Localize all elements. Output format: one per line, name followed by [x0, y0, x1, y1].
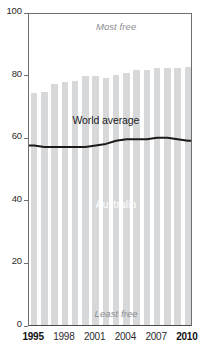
annotation-most-free: Most free	[96, 22, 137, 32]
series-label-world-average: World average	[72, 115, 139, 126]
x-axis: 199519982001200420072010	[0, 326, 203, 351]
y-tick-label: 80	[12, 69, 22, 79]
chart-container: 020406080100 199519982001200420072010 Mo…	[0, 0, 203, 351]
x-tick-label: 2001	[84, 332, 105, 342]
x-tick-label: 1998	[53, 332, 74, 342]
x-tick-label: 2004	[115, 332, 136, 342]
x-tick-label: 2007	[145, 332, 166, 342]
annotation-least-free: Least free	[95, 309, 138, 319]
clipped-title	[0, 0, 203, 1]
y-tick-label: 20	[12, 256, 22, 266]
x-tick-label: 1995	[22, 332, 43, 342]
plot-area: Most free Least free World average Austr…	[28, 13, 192, 326]
y-tick-label: 40	[12, 194, 22, 204]
y-axis: 020406080100	[0, 0, 28, 351]
x-tick-label: 2010	[176, 332, 197, 342]
world-average-line	[29, 14, 192, 326]
y-tick-label: 60	[12, 131, 22, 141]
series-label-australia: Australia	[96, 200, 137, 210]
y-tick-label: 100	[6, 6, 22, 16]
